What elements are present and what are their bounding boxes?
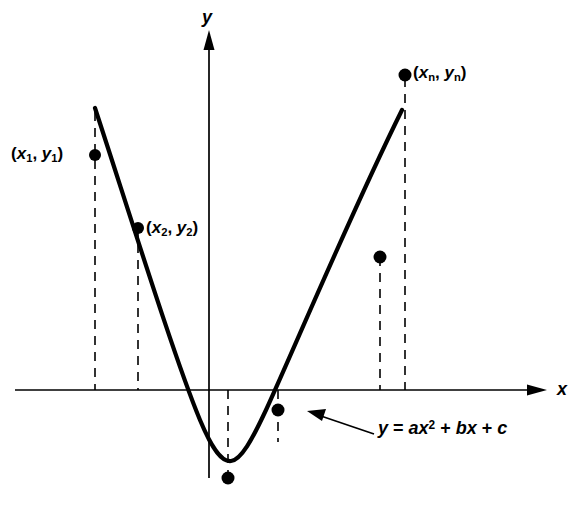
x-axis-label: x <box>557 380 567 398</box>
eq-term2-var: x <box>467 418 477 438</box>
y-axis-label: y <box>202 8 212 26</box>
curve-equation-label: y = ax2 + bx + c <box>378 419 507 437</box>
eq-sign: = <box>393 418 404 438</box>
point-label-pn-x: x <box>419 63 428 82</box>
point-label-p1-x: x <box>17 144 26 163</box>
eq-term2-coef: b <box>456 418 467 438</box>
data-point-p4[interactable] <box>272 404 285 417</box>
data-point-p2[interactable] <box>132 222 144 234</box>
drop-lines-group <box>95 78 405 478</box>
plot-svg <box>0 0 588 527</box>
eq-term3: c <box>497 418 507 438</box>
x-axis-arrowhead <box>527 385 547 396</box>
point-label-p1: (x1, y1) <box>11 145 63 164</box>
eq-term1-var: x <box>419 418 429 438</box>
figure-canvas: y x (x1, y1) (x2, y2) (xn, yn) y = ax2 +… <box>0 0 588 527</box>
y-axis-arrowhead <box>204 30 215 50</box>
eq-plus-1: + <box>440 418 451 438</box>
eq-lhs: y <box>378 418 388 438</box>
equation-leader-arrowhead <box>307 409 326 421</box>
fitted-curve <box>95 108 402 461</box>
point-label-pn: (xn, yn) <box>413 64 466 83</box>
eq-term1-coef: a <box>409 418 419 438</box>
data-point-p1[interactable] <box>89 149 101 161</box>
point-label-p2: (x2, y2) <box>146 219 198 238</box>
equation-leader-line <box>318 415 374 434</box>
eq-plus-2: + <box>482 418 493 438</box>
point-label-p2-x: x <box>152 218 161 237</box>
equation-leader-group <box>307 409 374 434</box>
data-point-p5[interactable] <box>374 251 387 264</box>
data-point-p3[interactable] <box>222 472 235 485</box>
point-label-pn-ysub: n <box>454 71 461 83</box>
data-point-pn[interactable] <box>399 69 412 82</box>
point-label-pn-xsub: n <box>428 71 435 83</box>
